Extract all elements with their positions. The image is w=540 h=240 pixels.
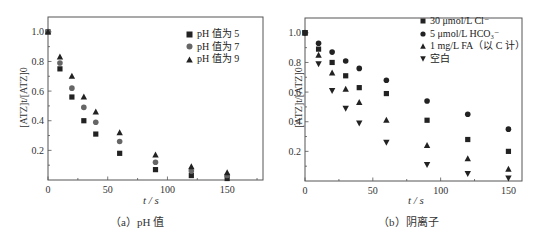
legend-item-ph7: pH 值为 7 bbox=[186, 41, 239, 54]
legend-ph: pH 值为 5 pH 值为 7 pH 值为 9 bbox=[186, 28, 239, 66]
square-marker bbox=[117, 151, 122, 156]
circle-marker-icon bbox=[420, 31, 426, 37]
circle-marker bbox=[506, 126, 512, 132]
triangle-up-marker bbox=[57, 54, 63, 60]
chart-panel-anions: 0501001500.20.40.60.81.0 30 μmol/L Cl⁻ 5… bbox=[270, 0, 540, 240]
triangle-up-marker bbox=[356, 99, 362, 105]
figure-caption: （a）pH 值 bbox=[110, 213, 164, 229]
triangle-up-marker bbox=[188, 163, 194, 169]
legend-item-ph5: pH 值为 5 bbox=[186, 28, 239, 41]
y-tick-label: 1.0 bbox=[289, 27, 302, 38]
square-marker bbox=[384, 91, 389, 96]
triangle-up-marker bbox=[329, 69, 335, 75]
square-marker-icon bbox=[186, 31, 193, 38]
legend-item-blank: 空白 bbox=[420, 53, 525, 66]
legend-item-hco3: 5 μmol/L HCO₃⁻ bbox=[420, 28, 525, 41]
triangle-down-marker bbox=[356, 121, 362, 127]
y-tick-label: 0.6 bbox=[32, 86, 45, 97]
triangle-up-marker bbox=[465, 155, 471, 161]
circle-marker bbox=[384, 77, 390, 83]
square-marker-icon bbox=[420, 18, 426, 24]
square-marker bbox=[465, 137, 470, 142]
y-tick-label: 0.2 bbox=[32, 145, 45, 156]
x-tick-label: 100 bbox=[160, 184, 175, 195]
circle-marker-icon bbox=[186, 43, 193, 50]
triangle-up-marker bbox=[93, 108, 99, 114]
x-axis-label: t / s bbox=[408, 194, 424, 206]
x-tick-label: 150 bbox=[501, 185, 516, 196]
triangle-down-marker bbox=[329, 88, 335, 94]
x-tick-label: 50 bbox=[368, 185, 378, 196]
circle-marker bbox=[329, 49, 335, 55]
legend-item-cl: 30 μmol/L Cl⁻ bbox=[420, 15, 525, 28]
y-axis-label: [ATZ]t/[ATZ]0 bbox=[18, 53, 29, 143]
legend-item-ph9: pH 值为 9 bbox=[186, 53, 239, 66]
triangle-down-marker-icon bbox=[420, 56, 426, 62]
y-tick-label: 0.2 bbox=[289, 146, 302, 157]
circle-marker bbox=[424, 98, 430, 104]
triangle-up-marker-icon bbox=[186, 56, 193, 63]
triangle-up-marker bbox=[224, 169, 230, 175]
legend-anions: 30 μmol/L Cl⁻ 5 μmol/L HCO₃⁻ 1 mg/L FA（以… bbox=[420, 15, 525, 65]
x-tick-label: 0 bbox=[46, 184, 51, 195]
triangle-up-marker bbox=[383, 117, 389, 123]
y-axis-label: [ATZ]t/[ATZ]0 bbox=[293, 53, 304, 143]
circle-marker bbox=[69, 85, 75, 91]
square-marker bbox=[153, 167, 158, 172]
square-marker bbox=[330, 60, 335, 65]
x-tick-label: 100 bbox=[433, 185, 448, 196]
triangle-down-marker bbox=[342, 106, 348, 112]
square-marker bbox=[57, 66, 62, 71]
y-tick-label: 0.8 bbox=[32, 56, 45, 67]
square-marker bbox=[316, 47, 321, 52]
square-marker bbox=[93, 131, 98, 136]
circle-marker bbox=[343, 58, 349, 64]
square-marker bbox=[69, 94, 74, 99]
square-marker bbox=[357, 85, 362, 90]
triangle-up-marker-icon bbox=[420, 43, 426, 49]
triangle-up-marker bbox=[69, 73, 75, 79]
square-marker bbox=[506, 149, 511, 154]
triangle-down-marker bbox=[465, 171, 471, 177]
triangle-down-marker bbox=[424, 162, 430, 168]
circle-marker bbox=[316, 40, 322, 46]
triangle-up-marker bbox=[342, 86, 348, 92]
triangle-up-marker bbox=[81, 94, 87, 100]
triangle-down-marker bbox=[383, 140, 389, 146]
y-tick-label: 1.0 bbox=[32, 26, 45, 37]
circle-marker bbox=[93, 119, 99, 125]
square-marker bbox=[343, 73, 348, 78]
circle-marker bbox=[57, 60, 63, 66]
square-marker bbox=[81, 118, 86, 123]
y-tick-label: 0.4 bbox=[32, 115, 45, 126]
triangle-up-marker bbox=[505, 166, 511, 172]
chart-panel-ph: 0501001500.20.40.60.81.0 pH 值为 5 pH 值为 7… bbox=[0, 0, 270, 240]
triangle-up-marker bbox=[315, 52, 321, 58]
circle-marker bbox=[81, 105, 87, 111]
legend-item-fa: 1 mg/L FA（以 C 计） bbox=[420, 40, 525, 53]
x-axis-label: t / s bbox=[143, 194, 159, 206]
circle-marker bbox=[465, 112, 471, 118]
x-tick-label: 150 bbox=[220, 184, 235, 195]
triangle-up-marker bbox=[424, 142, 430, 148]
triangle-up-marker bbox=[152, 151, 158, 157]
circle-marker bbox=[117, 139, 123, 145]
square-marker bbox=[424, 118, 429, 123]
x-tick-label: 0 bbox=[303, 185, 308, 196]
triangle-up-marker bbox=[116, 129, 122, 135]
x-tick-label: 50 bbox=[103, 184, 113, 195]
figure-caption: （b）阴离子 bbox=[378, 213, 439, 229]
circle-marker bbox=[356, 66, 362, 72]
triangle-down-marker bbox=[315, 61, 321, 67]
circle-marker bbox=[153, 159, 159, 165]
